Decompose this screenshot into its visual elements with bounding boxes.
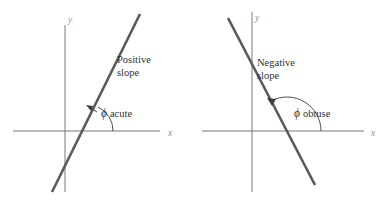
phi-symbol-acute: ϕ xyxy=(101,107,107,120)
slope-label-positive-line2: slope xyxy=(117,67,140,78)
x-axis-label-negative: x xyxy=(370,128,376,138)
y-axis-label-positive: y xyxy=(67,15,73,25)
slope-label-negative-line2: slope xyxy=(257,70,280,81)
phi-symbol-obtuse: ϕ xyxy=(294,107,300,120)
slope-label-positive-line1: Positive xyxy=(117,54,151,65)
panel-positive-slope: x y ϕacute Positive slope xyxy=(0,0,195,201)
slope-label-negative-line1: Negative xyxy=(257,57,295,68)
slope-angle-figure: x y ϕacute Positive slope x y xyxy=(0,0,389,201)
y-axis-label-negative: y xyxy=(254,13,260,23)
angle-label-obtuse: ϕobtuse xyxy=(294,107,331,120)
angle-label-acute: ϕacute xyxy=(101,107,132,120)
angle-label-acute-word: acute xyxy=(110,108,132,119)
angle-label-obtuse-word: obtuse xyxy=(303,108,331,119)
panel-negative-slope: x y ϕobtuse Negative slope xyxy=(194,0,389,201)
x-axis-label-positive: x xyxy=(167,128,173,138)
